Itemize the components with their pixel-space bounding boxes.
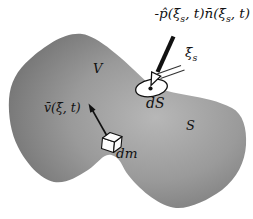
pressure-force-arrow-shaft bbox=[158, 37, 174, 73]
force-label-part: , t)n̄(ξ̄ bbox=[185, 5, 226, 21]
force-label-part: , t) bbox=[231, 5, 250, 21]
fluid-volume-blob bbox=[9, 34, 246, 208]
velocity-label: v̄(ξ̄, t) bbox=[44, 101, 81, 115]
surface-position-label: ξ̄s bbox=[185, 45, 197, 60]
force-label-part: -p̂(ξ̄ bbox=[154, 5, 180, 21]
surface-element-label: dS bbox=[146, 96, 165, 111]
surface-point-dot bbox=[148, 86, 152, 90]
mass-element-label: dm bbox=[116, 146, 137, 161]
diagram-graphics bbox=[0, 0, 253, 219]
xi-label-subscript: s bbox=[192, 52, 197, 63]
surface-label: S bbox=[186, 119, 195, 133]
pressure-force-label: -p̂(ξ̄s, t)n̄(ξ̄s, t) bbox=[98, 6, 250, 21]
volume-label: V bbox=[93, 62, 102, 76]
figure-canvas: -p̂(ξ̄s, t)n̄(ξ̄s, t) ξ̄s dS V S v̄(ξ̄, … bbox=[0, 0, 253, 219]
